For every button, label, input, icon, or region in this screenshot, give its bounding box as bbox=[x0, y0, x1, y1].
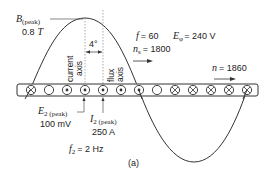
svg-text:axis: axis bbox=[115, 67, 125, 82]
rotor-speed-label: n= 1860 bbox=[212, 62, 247, 73]
svg-text:axis: axis bbox=[74, 61, 84, 76]
conductor-cross-icon bbox=[188, 85, 197, 94]
synchronous-speed-label: ns= 1800 bbox=[133, 43, 171, 56]
stator-voltage-label: Eφ= 240 V bbox=[172, 30, 215, 43]
svg-text:Eφ= 240 V: Eφ= 240 V bbox=[172, 30, 215, 43]
figure-caption: (a) bbox=[128, 158, 139, 168]
conductor-dot-icon bbox=[98, 85, 107, 94]
svg-text:0.8T: 0.8T bbox=[22, 26, 45, 37]
svg-text:4°: 4° bbox=[89, 39, 98, 49]
conductor-dot-icon bbox=[62, 85, 71, 94]
rotor-emf-label: E2 (peak) 100 mV bbox=[37, 97, 86, 129]
conductor-cross-icon bbox=[206, 85, 215, 94]
svg-text:n= 1860: n= 1860 bbox=[212, 62, 247, 73]
rotor-frequency-label: f2= 2 Hz bbox=[69, 143, 104, 156]
svg-text:100 mV: 100 mV bbox=[40, 119, 71, 129]
svg-text:250 A: 250 A bbox=[92, 127, 115, 137]
svg-text:f= 60: f= 60 bbox=[136, 30, 159, 41]
conductor-cross-icon bbox=[170, 85, 179, 94]
conductor-empty-icon bbox=[152, 85, 161, 94]
current-axis-label: current axis bbox=[65, 55, 84, 82]
conductor-dot-icon bbox=[80, 85, 89, 94]
angle-marker: 4° bbox=[86, 39, 102, 54]
b-peak-label: B(peak) 0.8T bbox=[16, 13, 83, 37]
stator-frequency-label: f= 60 bbox=[136, 30, 159, 41]
svg-text:B(peak): B(peak) bbox=[16, 13, 41, 26]
conductor-cross-icon bbox=[224, 85, 233, 94]
flux-axis-label: flux axis bbox=[106, 67, 125, 82]
rotor-current-label: I2 (peak) 250 A bbox=[89, 97, 117, 137]
conductor-dot-icon bbox=[116, 85, 125, 94]
synchronous-speed-arrow bbox=[133, 59, 153, 63]
svg-text:f2= 2 Hz: f2= 2 Hz bbox=[69, 143, 104, 156]
svg-text:ns= 1800: ns= 1800 bbox=[133, 43, 171, 56]
induction-motor-diagram: B(peak) 0.8T 4° current axis flux axis f… bbox=[0, 0, 269, 179]
svg-text:E2 (peak): E2 (peak) bbox=[37, 105, 68, 118]
conductor-empty-icon bbox=[44, 85, 53, 94]
svg-text:I2 (peak): I2 (peak) bbox=[89, 113, 117, 126]
rotor-speed-arrow bbox=[214, 77, 236, 81]
